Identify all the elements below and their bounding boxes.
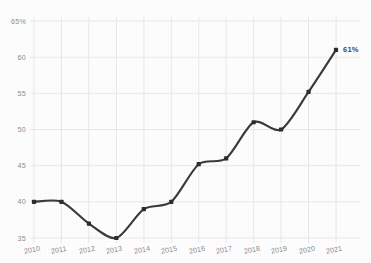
- data-point-marker: [142, 207, 146, 211]
- plot-area: [0, 0, 371, 263]
- data-point-marker: [252, 120, 256, 124]
- y-tick-label: 60: [0, 53, 26, 62]
- y-tick-label: 40: [0, 197, 26, 206]
- data-point-marker: [114, 236, 118, 240]
- series-line-path: [34, 50, 336, 238]
- data-point-marker: [224, 156, 228, 160]
- horizontal-gridlines: [30, 21, 360, 238]
- series-markers: [32, 48, 338, 240]
- y-tick-label: 55: [0, 89, 26, 98]
- y-tick-label: 50: [0, 125, 26, 134]
- y-tick-label: 35: [0, 234, 26, 243]
- data-point-marker: [32, 200, 36, 204]
- y-tick-label: 45: [0, 161, 26, 170]
- data-point-marker: [59, 200, 63, 204]
- data-point-marker: [197, 162, 201, 166]
- data-point-marker: [279, 127, 283, 131]
- data-point-annotation-61: 61%: [343, 45, 359, 54]
- line-chart: 65%605550454035 201020112012201320142015…: [0, 0, 371, 263]
- data-point-marker: [334, 48, 338, 52]
- data-point-marker: [169, 200, 173, 204]
- data-point-marker: [306, 90, 310, 94]
- data-point-marker: [87, 221, 91, 225]
- y-tick-label: 65%: [0, 17, 26, 26]
